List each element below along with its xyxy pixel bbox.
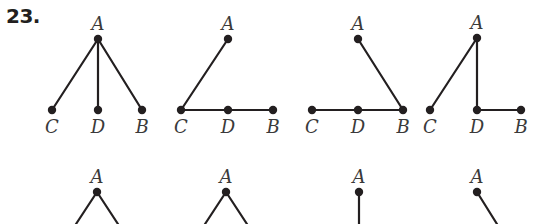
tree-2: ACDB [174, 13, 280, 137]
tree-5: A [76, 166, 118, 224]
vertex-label-a: A [351, 166, 366, 187]
vertex-label-c: C [174, 116, 188, 137]
vertex-label-a: A [90, 13, 105, 34]
vertex-c [308, 106, 316, 114]
edge-a-b [358, 39, 403, 110]
tree-7: A [351, 166, 366, 224]
edge-partial [76, 192, 97, 224]
vertex-a [94, 35, 102, 43]
vertex-label-b: B [513, 116, 527, 137]
edge-a-c [430, 38, 477, 110]
vertex-b [138, 106, 146, 114]
vertex-label-a: A [220, 13, 235, 34]
vertex-label-c: C [423, 116, 437, 137]
vertex-label-b: B [395, 116, 409, 137]
vertex-label-b: B [265, 116, 279, 137]
vertex-label-c: C [45, 116, 59, 137]
vertex-b [269, 106, 277, 114]
vertex-c [177, 106, 185, 114]
vertex-label-d: D [220, 116, 236, 137]
vertex-c [426, 106, 434, 114]
edge-a-b [98, 39, 142, 110]
spanning-trees-diagram: ACDBACDBACDBACDBAAAA [0, 0, 540, 224]
tree-4: ACDB [423, 12, 528, 137]
vertex-b [517, 106, 525, 114]
vertex-a [355, 188, 363, 196]
vertex-d [473, 106, 481, 114]
vertex-label-d: D [469, 116, 485, 137]
tree-3: ACDB [305, 13, 410, 137]
vertex-label-c: C [305, 116, 319, 137]
vertex-c [48, 106, 56, 114]
tree-8: A [469, 166, 498, 224]
vertex-a [222, 188, 230, 196]
vertex-d [224, 106, 232, 114]
vertex-label-b: B [134, 116, 148, 137]
vertex-label-d: D [350, 116, 366, 137]
vertex-a [93, 188, 101, 196]
tree-1: ACDB [45, 13, 149, 137]
edge-a-c [52, 39, 98, 110]
vertex-a [354, 35, 362, 43]
tree-6: A [205, 166, 247, 224]
vertex-d [94, 106, 102, 114]
vertex-a [473, 188, 481, 196]
vertex-label-a: A [469, 166, 484, 187]
vertex-b [399, 106, 407, 114]
vertex-label-d: D [90, 116, 106, 137]
vertex-d [354, 106, 362, 114]
edge-a-c [181, 39, 228, 110]
vertex-label-a: A [469, 12, 484, 33]
edge-partial [226, 192, 247, 224]
vertex-label-a: A [218, 166, 233, 187]
vertex-a [224, 35, 232, 43]
edge-partial [477, 192, 497, 224]
edge-partial [205, 192, 226, 224]
vertex-a [473, 34, 481, 42]
edge-partial [97, 192, 118, 224]
vertex-label-a: A [89, 166, 104, 187]
vertex-label-a: A [350, 13, 365, 34]
